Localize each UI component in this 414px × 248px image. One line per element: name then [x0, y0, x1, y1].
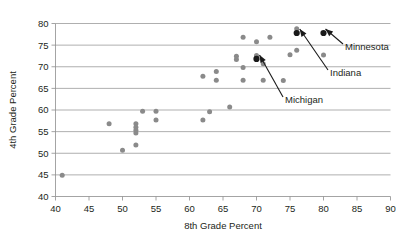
data-point — [214, 69, 219, 74]
data-point — [227, 104, 232, 109]
annotation-label-indiana: Indiana — [330, 67, 362, 78]
data-point — [267, 35, 272, 40]
x-tick-label-65: 65 — [218, 203, 229, 214]
annotation-indiana: Indiana — [300, 29, 362, 78]
x-axis-title: 8th Grade Percent — [184, 220, 262, 231]
data-point — [207, 109, 212, 114]
data-point — [288, 52, 293, 57]
y-tick-label-40: 40 — [38, 191, 49, 202]
data-point — [241, 35, 246, 40]
y-tick-label-50: 50 — [38, 148, 49, 159]
x-tick-label-85: 85 — [352, 203, 363, 214]
x-tick-label-50: 50 — [117, 203, 128, 214]
data-point — [140, 109, 145, 114]
y-tick-label-45: 45 — [38, 169, 49, 180]
y-tick-label-75: 75 — [38, 40, 49, 51]
data-point — [120, 148, 125, 153]
annotation-arrowhead — [300, 29, 307, 37]
y-tick-label-70: 70 — [38, 61, 49, 72]
data-point — [200, 74, 205, 79]
x-tick-label-70: 70 — [251, 203, 262, 214]
x-tick-label-45: 45 — [84, 203, 95, 214]
data-point — [60, 173, 65, 178]
highlighted-data-point-michigan — [253, 56, 259, 62]
data-point — [214, 78, 219, 83]
y-tick-label-80: 80 — [38, 18, 49, 29]
annotation-minnesota: Minnesota — [326, 29, 390, 52]
highlighted-data-point-indiana — [294, 30, 300, 36]
y-tick-label-65: 65 — [38, 83, 49, 94]
data-point — [200, 117, 205, 122]
x-tick-label-40: 40 — [50, 203, 61, 214]
y-tick-label-55: 55 — [38, 126, 49, 137]
data-point — [321, 53, 326, 58]
data-point — [154, 117, 159, 122]
data-point — [261, 78, 266, 83]
data-point — [107, 121, 112, 126]
data-point — [254, 39, 259, 44]
data-point — [133, 130, 138, 135]
data-point — [234, 57, 239, 62]
y-axis-title: 4th Grade Percent — [7, 71, 18, 149]
x-tick-label-90: 90 — [385, 203, 396, 214]
annotation-michigan: Michigan — [260, 55, 324, 105]
chart-canvas: 4045505560657075804045505560657075808590… — [0, 0, 414, 248]
x-tick-label-55: 55 — [151, 203, 162, 214]
data-point — [241, 65, 246, 70]
annotation-arrowhead — [260, 55, 266, 63]
annotation-label-michigan: Michigan — [285, 94, 323, 105]
y-tick-label-60: 60 — [38, 104, 49, 115]
scatter-plot-figure: 4045505560657075804045505560657075808590… — [0, 0, 414, 248]
annotation-label-minnesota: Minnesota — [345, 41, 390, 52]
data-point — [241, 78, 246, 83]
data-point — [281, 78, 286, 83]
data-point — [133, 143, 138, 148]
highlighted-data-point-minnesota — [320, 30, 326, 36]
x-tick-label-80: 80 — [318, 203, 329, 214]
data-point — [154, 109, 159, 114]
data-point — [294, 48, 299, 53]
x-tick-label-60: 60 — [184, 203, 195, 214]
x-tick-label-75: 75 — [285, 203, 296, 214]
